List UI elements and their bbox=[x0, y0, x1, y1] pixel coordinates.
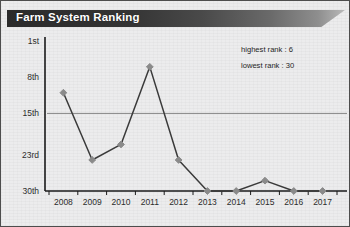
x-axis-tick-label: 2015 bbox=[250, 197, 280, 207]
data-point-marker bbox=[60, 89, 67, 96]
y-axis-tick-label: 8th bbox=[9, 72, 39, 82]
chart-card: Farm System Ranking 1st8th15th23rd30th20… bbox=[0, 0, 350, 227]
y-axis-tick-label: 15th bbox=[9, 108, 39, 118]
y-axis-tick-label: 1st bbox=[9, 36, 39, 46]
y-axis-tick-label: 23rd bbox=[9, 150, 39, 160]
annotation-lowest-rank: lowest rank : 30 bbox=[241, 61, 294, 70]
chart-svg bbox=[1, 1, 350, 227]
x-axis-tick-label: 2010 bbox=[106, 197, 136, 207]
annotation-highest-rank: highest rank : 6 bbox=[241, 45, 293, 54]
x-axis-tick-label: 2014 bbox=[221, 197, 251, 207]
data-point-marker bbox=[319, 188, 326, 195]
x-axis-tick-label: 2016 bbox=[279, 197, 309, 207]
data-point-marker bbox=[233, 188, 240, 195]
x-axis-tick-label: 2012 bbox=[164, 197, 194, 207]
y-axis-tick-label: 30th bbox=[9, 186, 39, 196]
data-point-marker bbox=[146, 63, 153, 70]
line-chart-plot: 1st8th15th23rd30th2008200920102011201220… bbox=[1, 1, 350, 227]
data-point-marker bbox=[89, 157, 96, 164]
data-point-marker bbox=[118, 141, 125, 148]
x-axis-tick-label: 2013 bbox=[192, 197, 222, 207]
data-point-marker bbox=[290, 188, 297, 195]
x-axis-tick-label: 2009 bbox=[77, 197, 107, 207]
x-axis-tick-label: 2008 bbox=[48, 197, 78, 207]
x-axis-tick-label: 2017 bbox=[308, 197, 338, 207]
data-point-marker bbox=[262, 177, 269, 184]
x-axis-tick-label: 2011 bbox=[135, 197, 165, 207]
series-line bbox=[63, 67, 322, 191]
